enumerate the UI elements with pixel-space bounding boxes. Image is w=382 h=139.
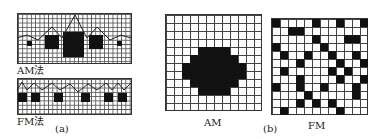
fm-dot-grid-b: [271, 18, 368, 115]
filled-cell: [214, 87, 222, 95]
fm-method-label: FM法: [17, 117, 44, 127]
filled-cell: [206, 79, 214, 87]
filled-cell: [320, 83, 328, 91]
filled-cell: [206, 63, 214, 71]
filled-cell: [222, 55, 230, 63]
panel-b-caption: (b): [263, 124, 277, 134]
filled-cell: [360, 75, 368, 83]
filled-cell: [230, 71, 238, 79]
filled-cell: [296, 83, 304, 91]
filled-cell: [238, 71, 246, 79]
filled-cell: [336, 75, 344, 83]
filled-cell: [304, 51, 312, 59]
filled-cell: [272, 19, 280, 27]
filled-cell: [190, 63, 198, 71]
filled-cell: [222, 63, 230, 71]
filled-cell: [214, 47, 222, 55]
filled-cell: [296, 27, 304, 35]
am-dot-grid-b: [165, 14, 262, 111]
filled-cell: [312, 35, 320, 43]
filled-cell: [214, 79, 222, 87]
filled-cell: [272, 43, 280, 51]
filled-cell: [320, 43, 328, 51]
filled-cell: [296, 99, 304, 107]
filled-cell: [304, 91, 312, 99]
filled-cell: [238, 63, 246, 71]
filled-cell: [222, 87, 230, 95]
filled-cell: [352, 91, 360, 99]
filled-cell: [272, 83, 280, 91]
filled-cell: [198, 79, 206, 87]
filled-cell: [198, 47, 206, 55]
filled-cell: [206, 71, 214, 79]
filled-cell: [230, 55, 238, 63]
filled-cell: [352, 83, 360, 91]
filled-cell: [328, 67, 336, 75]
filled-cell: [328, 99, 336, 107]
fm-grid-label: FM: [308, 121, 325, 131]
filled-cell: [190, 71, 198, 79]
filled-cell: [352, 51, 360, 59]
filled-cell: [312, 19, 320, 27]
panel-a-caption: (a): [55, 124, 69, 134]
filled-cell: [344, 67, 352, 75]
filled-cell: [198, 63, 206, 71]
filled-cell: [198, 55, 206, 63]
filled-cell: [198, 87, 206, 95]
filled-cell: [312, 99, 320, 107]
filled-cell: [336, 19, 344, 27]
am-grid-label: AM: [204, 118, 221, 128]
filled-cell: [360, 59, 368, 67]
filled-cell: [222, 47, 230, 55]
filled-cell: [296, 59, 304, 67]
filled-cell: [344, 35, 352, 43]
filled-cell: [190, 79, 198, 87]
filled-cell: [190, 55, 198, 63]
filled-cell: [230, 79, 238, 87]
filled-cell: [222, 71, 230, 79]
filled-cell: [280, 67, 288, 75]
filled-cell: [214, 63, 222, 71]
filled-cell: [206, 55, 214, 63]
filled-cell: [206, 47, 214, 55]
filled-cell: [336, 59, 344, 67]
filled-cell: [280, 107, 288, 115]
filled-cell: [280, 51, 288, 59]
filled-cell: [198, 71, 206, 79]
filled-cell: [182, 71, 190, 79]
filled-cell: [214, 55, 222, 63]
filled-cell: [360, 19, 368, 27]
filled-cell: [288, 27, 296, 35]
filled-cell: [328, 51, 336, 59]
filled-cell: [214, 71, 222, 79]
filled-cell: [230, 63, 238, 71]
filled-cell: [182, 63, 190, 71]
filled-cell: [206, 87, 214, 95]
filled-cell: [352, 35, 360, 43]
filled-cell: [296, 75, 304, 83]
filled-cell: [336, 107, 344, 115]
filled-cell: [222, 79, 230, 87]
